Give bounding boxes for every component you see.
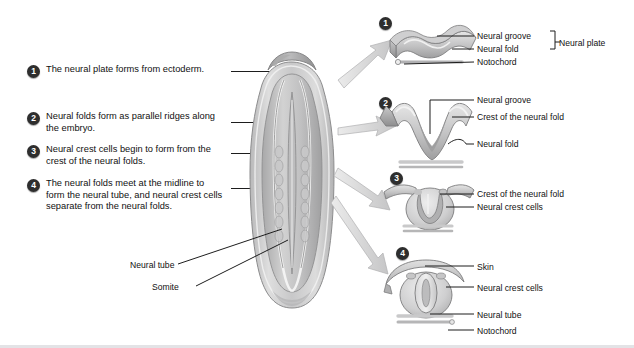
stage-arrows: [331, 40, 396, 274]
step-badge-2: 2: [27, 112, 40, 125]
step-badge-4: 4: [27, 179, 40, 192]
panel4-label-notochord: Notochord: [477, 327, 517, 336]
panel-4-illustration: [384, 260, 474, 330]
panel3-label-neural-crest-cells: Neural crest cells: [477, 203, 543, 212]
step-badge-3: 3: [27, 145, 40, 158]
panel1-label-notochord: Notochord: [477, 58, 517, 67]
panel4-label-neural-crest-cells: Neural crest cells: [477, 284, 543, 293]
panel-badge-3: 3: [390, 172, 403, 185]
panel-badge-1: 1: [379, 17, 392, 30]
step-text-1: The neural plate forms from ectoderm.: [46, 64, 224, 76]
panel-badge-4: 4: [396, 247, 409, 260]
panel2-label-neural-fold: Neural fold: [477, 140, 519, 149]
step-text-3: Neural crest cells begin to form from th…: [46, 144, 224, 167]
neurulation-figure: 1 The neural plate forms from ectoderm. …: [0, 0, 634, 348]
panel-3-illustration: [384, 185, 474, 231]
panel-1-illustration: [390, 25, 560, 64]
panel1-label-neural-groove: Neural groove: [477, 32, 531, 41]
arrow-to-panel-3: [334, 168, 390, 210]
step-badge-1: 1: [27, 65, 40, 78]
figure-artwork: [0, 0, 634, 348]
step-text-2: Neural folds form as parallel ridges alo…: [46, 111, 224, 134]
panel2-label-crest-of-the-neural-fold: Crest of the neural fold: [477, 113, 564, 122]
panel2-label-neural-groove: Neural groove: [477, 96, 531, 105]
panel1-bracket-label-neural-plate: Neural plate: [559, 39, 605, 48]
arrow-to-panel-1: [338, 40, 392, 88]
leader-line-step-4: [231, 188, 291, 189]
leader-line-step-2: [231, 122, 291, 123]
arrow-to-panel-4: [331, 196, 388, 274]
panel4-label-neural-tube: Neural tube: [477, 311, 521, 320]
leader-line-somite: [196, 240, 288, 286]
step-text-4: The neural folds meet at the midline to …: [46, 178, 224, 213]
panel-2-illustration: [380, 100, 474, 167]
panel3-label-crest-of-the-neural-fold: Crest of the neural fold: [477, 190, 564, 199]
panel4-label-skin: Skin: [477, 263, 494, 272]
leader-line-step-3: [231, 153, 291, 154]
arrow-to-panel-2: [338, 116, 396, 136]
embryo-label-somite: Somite: [152, 283, 179, 292]
leader-line-neural-tube: [178, 229, 282, 264]
panel-badge-2: 2: [379, 97, 392, 110]
embryo-illustration: [250, 52, 334, 308]
leader-line-step-1: [231, 71, 291, 72]
embryo-label-neural-tube: Neural tube: [130, 261, 174, 270]
panel1-label-neural-fold: Neural fold: [477, 45, 519, 54]
